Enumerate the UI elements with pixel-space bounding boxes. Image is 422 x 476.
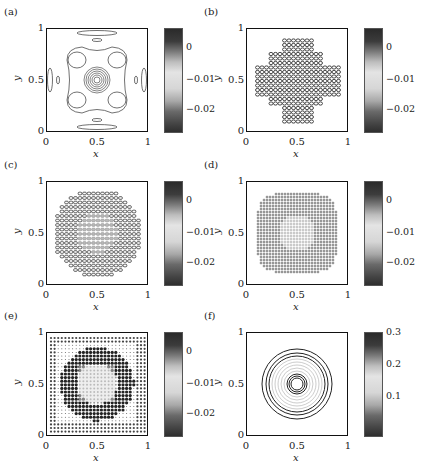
colorbar-tick-label: 0.3 — [386, 326, 401, 337]
panel-e: (e)10.5000.51yx0−0.01−0.02 — [0, 304, 211, 459]
colorbar — [164, 332, 183, 437]
contour-plot-area — [46, 28, 148, 132]
colorbar-tick-label: −0.01 — [386, 226, 415, 237]
x-tick-label: 1 — [136, 440, 160, 451]
colorbar-tick-label: 0.2 — [386, 358, 401, 369]
x-axis-label: x — [293, 452, 299, 463]
y-tick-label: 0 — [224, 278, 244, 289]
panel-label: (e) — [4, 310, 18, 321]
x-tick-label: 0 — [234, 440, 258, 451]
colorbar-tick-label: 0 — [386, 41, 392, 52]
x-tick-label: 0.5 — [285, 136, 309, 147]
y-tick-label: 1 — [24, 326, 44, 337]
x-tick-label: 0.5 — [85, 136, 109, 147]
y-tick-label: 0 — [24, 429, 44, 440]
x-tick-label: 0 — [234, 136, 258, 147]
panel-f: (f)10.5000.51yx0.30.20.1 — [200, 304, 411, 459]
x-tick-label: 1 — [136, 136, 160, 147]
x-tick-label: 0 — [34, 136, 58, 147]
contour-plot-area — [246, 332, 348, 436]
x-tick-label: 1 — [336, 440, 360, 451]
panel-a: (a)10.5000.51yx0−0.01−0.02 — [0, 0, 211, 155]
colorbar-tick-label: 0.1 — [386, 390, 401, 401]
colorbar-tick-label: 0 — [186, 41, 192, 52]
y-axis-label: y — [11, 76, 22, 82]
colorbar-tick-label: 0 — [186, 194, 192, 205]
panel-label: (b) — [204, 6, 218, 17]
x-tick-label: 0.5 — [285, 289, 309, 300]
y-tick-label: 0.5 — [224, 227, 244, 238]
colorbar — [164, 28, 183, 133]
y-tick-label: 0.5 — [24, 378, 44, 389]
x-tick-label: 1 — [336, 136, 360, 147]
colorbar-tick-label: −0.01 — [386, 73, 415, 84]
y-axis-label: y — [211, 229, 222, 235]
y-tick-label: 0 — [224, 125, 244, 136]
colorbar-tick-label: −0.02 — [386, 103, 415, 114]
y-tick-label: 1 — [224, 175, 244, 186]
panel-label: (c) — [4, 159, 17, 170]
y-axis-label: y — [211, 380, 222, 386]
panel-b: (b)10.5000.51yx0−0.01−0.02 — [200, 0, 411, 155]
y-tick-label: 0 — [24, 125, 44, 136]
y-tick-label: 0.5 — [24, 227, 44, 238]
colorbar — [364, 332, 383, 437]
contour-plot-area — [46, 181, 148, 285]
y-tick-label: 0 — [24, 278, 44, 289]
colorbar-tick-label: −0.02 — [386, 256, 415, 267]
x-tick-label: 0.5 — [285, 440, 309, 451]
x-tick-label: 0.5 — [85, 289, 109, 300]
y-axis-label: y — [11, 229, 22, 235]
x-axis-label: x — [93, 452, 99, 463]
y-tick-label: 1 — [224, 22, 244, 33]
x-tick-label: 0 — [34, 289, 58, 300]
y-axis-label: y — [11, 380, 22, 386]
y-axis-label: y — [211, 76, 222, 82]
colorbar — [364, 181, 383, 286]
colorbar-tick-label: 0 — [386, 194, 392, 205]
colorbar — [364, 28, 383, 133]
contour-plot-area — [246, 28, 348, 132]
panel-label: (a) — [4, 6, 18, 17]
x-tick-label: 1 — [336, 289, 360, 300]
y-tick-label: 0.5 — [224, 74, 244, 85]
y-tick-label: 0 — [224, 429, 244, 440]
y-tick-label: 1 — [24, 22, 44, 33]
y-tick-label: 1 — [224, 326, 244, 337]
x-tick-label: 0.5 — [85, 440, 109, 451]
colorbar — [164, 181, 183, 286]
panel-label: (d) — [204, 159, 218, 170]
x-tick-label: 1 — [136, 289, 160, 300]
y-tick-label: 0.5 — [224, 378, 244, 389]
panel-label: (f) — [204, 310, 216, 321]
panel-c: (c)10.5000.51yx0−0.01−0.02 — [0, 153, 211, 308]
colorbar-tick-label: 0 — [186, 345, 192, 356]
x-tick-label: 0 — [34, 440, 58, 451]
contour-plot-area — [46, 332, 148, 436]
contour-plot-area — [246, 181, 348, 285]
y-tick-label: 0.5 — [24, 74, 44, 85]
panel-d: (d)10.5000.51yx0−0.01−0.02 — [200, 153, 411, 308]
x-tick-label: 0 — [234, 289, 258, 300]
y-tick-label: 1 — [24, 175, 44, 186]
